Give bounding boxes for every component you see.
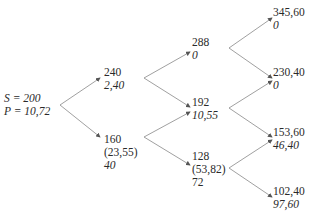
node-price: 240 (104, 66, 124, 79)
node-price: 230,40 (273, 66, 305, 79)
node-price: 160 (104, 133, 138, 146)
node-ddd: 102,40 97,60 (273, 185, 305, 211)
node-up: 240 2,40 (104, 66, 124, 92)
node-down: 160 (23,55) 40 (104, 133, 138, 172)
node-value: 40 (104, 159, 138, 172)
node-price: 192 (192, 96, 218, 109)
node-uud: 230,40 0 (273, 66, 305, 92)
node-value: 0 (273, 79, 305, 92)
node-udd: 153,60 46,40 (273, 126, 305, 152)
node-value: 46,40 (273, 139, 305, 152)
node-value: 10,55 (192, 109, 218, 122)
node-price: 153,60 (273, 126, 305, 139)
node-ud: 192 10,55 (192, 96, 218, 122)
node-uuu: 345,60 0 (273, 6, 305, 32)
node-value: 72 (192, 176, 226, 189)
node-root: S = 200 P = 10,72 (4, 92, 50, 118)
node-value: 0 (273, 19, 305, 32)
node-uu: 288 0 (192, 36, 209, 62)
node-price: 345,60 (273, 6, 305, 19)
node-price: 128 (192, 150, 226, 163)
root-option-price: P = 10,72 (4, 105, 50, 118)
node-value: 2,40 (104, 79, 124, 92)
node-price: 288 (192, 36, 209, 49)
root-stock-price: S = 200 (4, 92, 50, 105)
node-price: 102,40 (273, 185, 305, 198)
node-value: 97,60 (273, 198, 305, 211)
node-exercise-value: (23,55) (104, 146, 138, 159)
node-value: 0 (192, 49, 209, 62)
node-exercise-value: (53,82) (192, 163, 226, 176)
node-dd: 128 (53,82) 72 (192, 150, 226, 189)
